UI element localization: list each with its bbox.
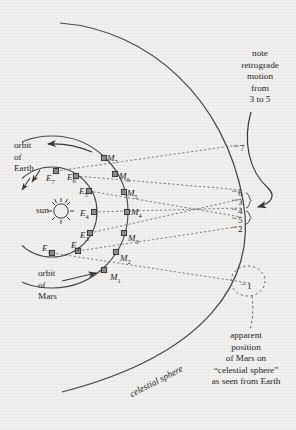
earth-position-label-E2: E2 [71,240,80,252]
earth-position-label-E6: E6 [67,172,76,184]
mars-position-label-M3: M3 [128,233,139,245]
mars-position-label-M2: M2 [120,253,131,265]
retrograde-arrow [247,112,272,207]
earth-position-label-E7: E7 [46,173,55,185]
mars-marker-M6 [112,171,117,176]
mars-position-label-M7: M7 [107,153,118,165]
retrograde-brace [246,193,251,224]
earth-position-label-E3: E3 [80,230,89,242]
orbit-mask-left [0,0,22,430]
note-retrograde-label: note retrograde motion from 3 to 5 [232,48,288,106]
orbit-of-earth-label: orbit of Earth [14,140,56,175]
mars-marker-M5 [121,189,126,194]
mars-marker-M3 [121,230,126,235]
mars-position-label-M1: M1 [110,272,121,284]
mars-marker-M1 [101,267,106,272]
earth-marker-E4 [91,209,96,214]
earth-position-label-E1: E1 [42,243,51,255]
sun-label: sun [36,205,49,217]
mars-position-label-M5: M5 [127,188,138,200]
mars-position-label-M6: M6 [119,171,130,183]
apparent-position-label: apparent position of Mars on “celestial … [196,330,296,388]
sun-icon [48,198,74,224]
retrograde-motion-diagram: note retrograde motion from 3 to 5 orbit… [0,0,296,430]
mars-marker-M7 [101,155,106,160]
orbit-of-earth-leader [22,178,30,190]
sphere-number-2: 2 [238,224,243,234]
sphere-number-7: 7 [240,143,245,153]
earth-position-label-E4: E4 [80,208,89,220]
earth-position-label-E5: E5 [79,186,88,198]
orbit-of-mars-label: orbit of Mars [38,268,80,303]
mars-marker-M4 [124,209,129,214]
mars-position-label-M4: M4 [131,207,142,219]
sphere-number-1: 1 [247,281,252,291]
mars-marker-M2 [113,249,118,254]
